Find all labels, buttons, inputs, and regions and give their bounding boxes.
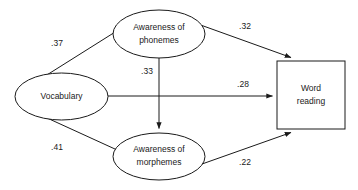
coefficient-morphemes-to-word-reading: .22 (239, 157, 251, 167)
node-awareness-morphemes[interactable]: Awareness of morphemes (113, 133, 205, 180)
coefficient-vocabulary-to-phonemes: .37 (51, 38, 63, 48)
coefficient-vocabulary-to-word-reading: .28 (237, 79, 249, 89)
edge-vocabulary-to-phonemes (46, 28, 122, 76)
path-diagram-canvas: Vocabulary Awareness of phonemes Awarene… (0, 0, 358, 190)
awareness-morphemes-label-line2: morphemes (137, 157, 182, 167)
coefficient-vocabulary-to-morphemes: .41 (51, 142, 63, 152)
word-reading-label-line1: Word (301, 83, 321, 93)
node-awareness-phonemes[interactable]: Awareness of phonemes (113, 10, 205, 58)
vocabulary-label: Vocabulary (40, 91, 83, 101)
path-diagram: Vocabulary Awareness of phonemes Awarene… (0, 0, 358, 190)
nodes-group: Vocabulary Awareness of phonemes Awarene… (15, 10, 345, 180)
awareness-phonemes-label-line2: phonemes (139, 35, 179, 45)
awareness-phonemes-label-line1: Awareness of (133, 22, 185, 32)
coefficient-phonemes-to-morphemes: .33 (141, 66, 153, 76)
node-vocabulary[interactable]: Vocabulary (15, 73, 108, 120)
coefficient-phonemes-to-word-reading: .32 (239, 21, 251, 31)
node-word-reading[interactable]: Word reading (277, 61, 345, 129)
awareness-phonemes-ellipse[interactable] (113, 10, 205, 58)
word-reading-rectangle[interactable] (277, 61, 345, 129)
awareness-morphemes-label-line1: Awareness of (133, 144, 185, 154)
word-reading-label-line2: reading (297, 96, 326, 106)
